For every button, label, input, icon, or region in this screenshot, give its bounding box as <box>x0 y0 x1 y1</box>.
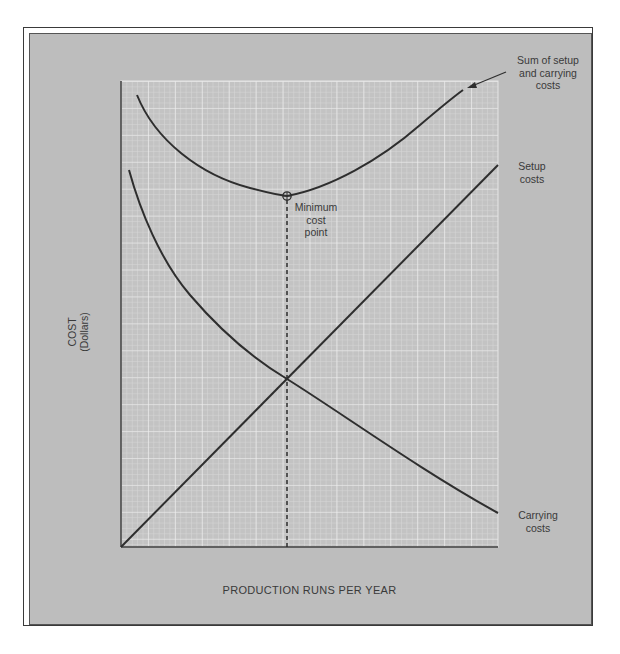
x-axis-title: PRODUCTION RUNS PER YEAR <box>121 584 498 596</box>
setup-costs-label: Setup costs <box>507 160 557 185</box>
carrying-label-line2: costs <box>508 522 568 535</box>
sum-costs-label: Sum of setup and carrying costs <box>508 54 588 92</box>
sum-label-line2: and carrying <box>508 67 588 80</box>
minimum-point-marker <box>283 192 291 200</box>
min-label-line1: Minimum <box>290 201 342 214</box>
cost-chart <box>0 0 620 654</box>
setup-label-line2: costs <box>507 173 557 186</box>
carrying-label-line1: Carrying <box>508 509 568 522</box>
y-axis-title-main: COST <box>66 292 78 372</box>
sum-label-line1: Sum of setup <box>508 54 588 67</box>
min-label-line2: cost <box>290 214 342 227</box>
minimum-cost-point-label: Minimum cost point <box>290 201 342 239</box>
setup-label-line1: Setup <box>507 160 557 173</box>
y-axis-title: COST (Dollars) <box>66 292 90 372</box>
carrying-costs-label: Carrying costs <box>508 509 568 534</box>
y-axis-title-sub: (Dollars) <box>78 292 90 372</box>
min-label-line3: point <box>290 226 342 239</box>
sum-label-line3: costs <box>508 79 588 92</box>
